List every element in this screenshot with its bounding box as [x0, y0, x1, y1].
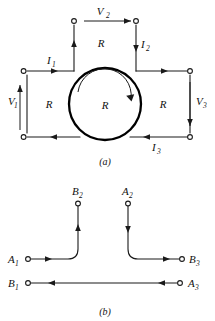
- terminal-node-left-lower: [21, 135, 26, 140]
- terminal-label-b1: B 1: [8, 277, 19, 292]
- panel-b-caption: (b): [99, 306, 111, 318]
- panel-b: B 2 A 2 A 1 B 3 B 1: [7, 185, 200, 318]
- terminal-label-b3: B 3: [189, 253, 200, 268]
- v2-arrowhead-icon: [124, 18, 131, 24]
- terminal-label-a2: A 2: [121, 185, 133, 200]
- voltage-label-v2: V 2: [97, 5, 110, 20]
- terminal-label-a1: A 1: [7, 253, 19, 268]
- resistor-label-right: R: [159, 98, 167, 110]
- terminal-node-right-lower: [188, 135, 193, 140]
- current-label-i1-sub: 1: [52, 60, 56, 69]
- terminal-label-b2-sub: 2: [79, 191, 83, 200]
- voltage-label-v3: V 3: [196, 95, 207, 110]
- terminal-label-b2: B 2: [72, 185, 83, 200]
- current-label-i2-sub: 2: [146, 44, 150, 53]
- panel-a-caption: (a): [99, 156, 111, 168]
- terminal-label-b1-sub: 1: [15, 283, 19, 292]
- branch-right-out-arrowhead-icon: [161, 68, 168, 74]
- terminal-label-a1-base: A: [7, 253, 15, 265]
- circulation-arrowhead-icon: [126, 94, 134, 101]
- terminal-label-b3-sub: 3: [195, 259, 200, 268]
- voltage-label-v2-base: V: [97, 5, 105, 17]
- connection-a1-b2: [31, 206, 78, 259]
- resistor-label-top: R: [97, 37, 105, 49]
- terminal-label-a3-base: A: [187, 277, 195, 289]
- connection-a2-b3: [128, 206, 179, 259]
- terminal-node-top-right: [134, 19, 139, 24]
- terminal-label-a2-base: A: [121, 185, 129, 197]
- current-label-i2: I 2: [140, 38, 150, 53]
- resistor-label-left: R: [45, 98, 53, 110]
- terminal-label-b1-base: B: [8, 277, 15, 289]
- connection-a1-b2-arrowhead-right-icon: [45, 256, 52, 262]
- panel-a: R R R R V 2 V 1 V 3 I 1: [8, 5, 207, 168]
- terminal-label-b3-base: B: [189, 253, 196, 265]
- i3-arrowhead-icon: [143, 134, 150, 140]
- terminal-node-a1: [26, 257, 31, 262]
- i1-arrowhead-icon: [51, 68, 58, 74]
- terminal-node-top-left: [72, 19, 77, 24]
- connection-a2-b3-arrowhead-down-icon: [125, 226, 131, 233]
- connection-a1-b2-arrowhead-up-icon: [75, 224, 81, 231]
- branch-bottom-left-arrowhead-icon: [50, 134, 57, 140]
- current-label-i1: I 1: [46, 54, 56, 69]
- terminal-node-b1: [26, 281, 31, 286]
- terminal-label-a3-sub: 3: [194, 283, 199, 292]
- terminal-label-a1-sub: 1: [15, 259, 19, 268]
- terminal-node-a3: [178, 281, 183, 286]
- connection-a3-b1-arrowhead-left-2-icon: [158, 280, 165, 286]
- voltage-label-v1: V 1: [8, 95, 18, 110]
- connection-a3-b1-arrowhead-left-1-icon: [48, 280, 55, 286]
- voltage-label-v2-sub: 2: [106, 11, 110, 20]
- terminal-node-left-upper: [21, 69, 26, 74]
- voltage-label-v1-sub: 1: [14, 101, 18, 110]
- terminal-node-b2: [76, 201, 81, 206]
- resistor-label-center: R: [101, 99, 109, 111]
- i2-arrowhead-icon: [133, 45, 139, 52]
- terminal-node-b3: [180, 257, 185, 262]
- voltage-label-v3-sub: 3: [202, 101, 207, 110]
- terminal-label-a2-sub: 2: [129, 191, 133, 200]
- terminal-node-right-upper: [188, 69, 193, 74]
- terminal-label-a3: A 3: [187, 277, 199, 292]
- v1-arrowhead-icon: [17, 85, 23, 92]
- circuit-figure: R R R R V 2 V 1 V 3 I 1: [0, 0, 215, 321]
- connection-a2-b3-arrowhead-right-icon: [163, 256, 170, 262]
- v3-arrowhead-icon: [187, 119, 193, 126]
- current-label-i3-sub: 3: [156, 147, 161, 156]
- branch-top-left-arrowhead-icon: [71, 40, 77, 47]
- current-label-i3: I 3: [151, 141, 161, 156]
- figure-page: R R R R V 2 V 1 V 3 I 1: [0, 0, 215, 321]
- terminal-label-b2-base: B: [72, 185, 79, 197]
- terminal-node-a2: [126, 201, 131, 206]
